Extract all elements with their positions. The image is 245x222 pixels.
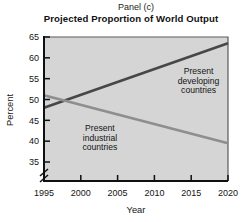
y-tick-label: 65: [29, 32, 39, 42]
x-tick-label: 2015: [181, 188, 201, 198]
x-tick-label: 1995: [34, 188, 54, 198]
x-tick-label: 2005: [108, 188, 128, 198]
y-axis-label: Percent: [5, 94, 15, 126]
x-tick-label: 2020: [218, 188, 238, 198]
chart-panel: Panel (c) Projected Proportion of World …: [0, 0, 245, 222]
plot-background: [44, 37, 228, 181]
x-tick-label: 2010: [144, 188, 164, 198]
line-chart: 65605550454035199520002005201020152020Pr…: [0, 0, 245, 222]
y-tick-label: 45: [29, 116, 39, 126]
plot-area: 65605550454035199520002005201020152020Pr…: [29, 32, 238, 198]
y-tick-label: 55: [29, 74, 39, 84]
y-tick-label: 35: [29, 157, 39, 167]
series-annotation: Presentdevelopingcountries: [178, 66, 220, 95]
x-axis-label: Year: [127, 205, 146, 215]
series-annotation: Presentindustrialcountries: [82, 123, 117, 152]
y-tick-label: 60: [29, 53, 39, 63]
y-tick-label: 40: [29, 136, 39, 146]
x-tick-label: 2000: [71, 188, 91, 198]
y-tick-label: 50: [29, 95, 39, 105]
